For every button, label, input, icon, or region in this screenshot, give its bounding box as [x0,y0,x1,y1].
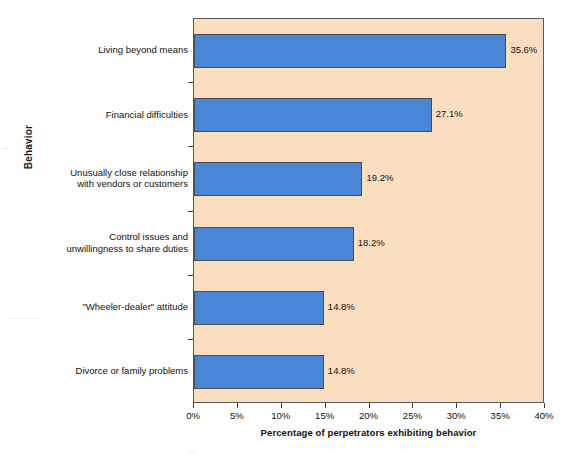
x-axis-tick-label: 0% [173,410,213,421]
x-axis-tick-mark [412,403,413,408]
y-axis-tick-mark [188,339,193,340]
bar [194,34,506,68]
scan-artifact [8,318,38,319]
scan-artifact [2,148,8,149]
x-axis-tick-mark [544,403,545,408]
y-axis-tick-label: Financial difficulties [26,109,188,121]
bar-value-label: 19.2% [366,172,393,183]
bar [194,291,324,325]
x-axis-tick-mark [456,403,457,408]
x-axis-tick-label: 25% [392,410,432,421]
y-axis-tick-mark [188,146,193,147]
x-axis-tick-mark [500,403,501,408]
x-axis-tick-mark [369,403,370,408]
x-axis-tick-mark [237,403,238,408]
scan-artifact [190,452,194,453]
y-axis-tick-mark [188,82,193,83]
x-axis-tick-label: 10% [261,410,301,421]
x-axis-tick-label: 20% [349,410,389,421]
bar-value-label: 18.2% [358,237,385,248]
x-axis-tick-label: 35% [480,410,520,421]
bar-value-label: 14.8% [328,301,355,312]
plot-area [193,18,544,403]
x-axis-tick-label: 5% [217,410,257,421]
y-axis-tick-label: Divorce or family problems [26,365,188,377]
y-axis-tick-label: "Wheeler-dealer" attitude [26,301,188,313]
x-axis-title: Percentage of perpetrators exhibiting be… [193,427,544,438]
bar-value-label: 14.8% [328,365,355,376]
y-axis-tick-mark [188,275,193,276]
bar [194,98,432,132]
x-axis-tick-mark [193,403,194,408]
bar [194,355,324,389]
y-axis-tick-label: Unusually close relationship with vendor… [26,167,188,190]
x-axis-tick-mark [281,403,282,408]
y-axis-tick-label: Living beyond means [26,44,188,56]
y-axis-tick-labels: Living beyond meansFinancial difficultie… [26,18,188,403]
x-axis-tick-mark [325,403,326,408]
x-axis-tick-label: 40% [524,410,564,421]
x-axis-tick-label: 15% [305,410,345,421]
bar [194,162,362,196]
y-axis-tick-mark [188,211,193,212]
y-axis-tick-label: Control issues and unwillingness to shar… [26,231,188,254]
bar-chart: Behavior Living beyond meansFinancial di… [0,0,568,464]
bar [194,227,354,261]
bar-value-label: 27.1% [436,108,463,119]
x-axis-tick-label: 30% [436,410,476,421]
bar-value-label: 35.6% [510,44,537,55]
